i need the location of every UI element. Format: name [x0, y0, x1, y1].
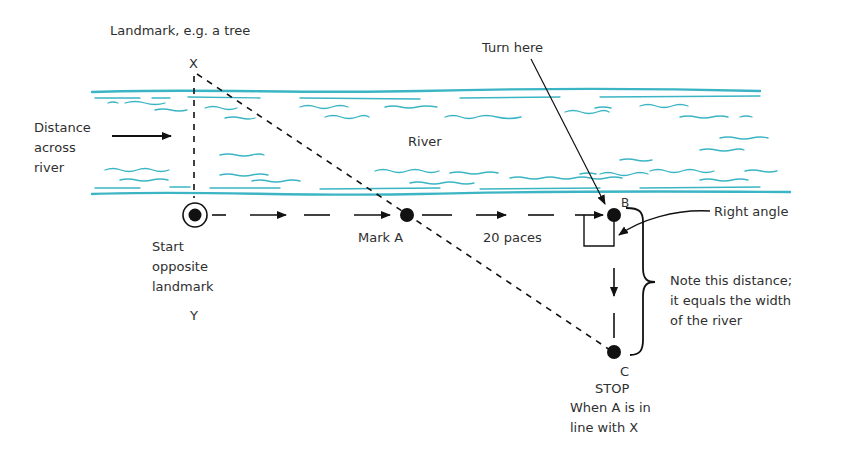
right-angle-arrow [619, 211, 710, 235]
pacing-path [212, 215, 614, 338]
mark-a-label: Mark A [358, 229, 403, 246]
right-angle-label: Right angle [714, 203, 788, 220]
paces-label: 20 paces [483, 229, 542, 246]
point-y [183, 203, 207, 227]
stop-condition-label: When A is in line with X [570, 398, 651, 438]
turn-here-arrow [531, 59, 605, 204]
river-label: River [408, 133, 442, 150]
stop-label: STOP [595, 380, 629, 397]
note-distance-label: Note this distance; it equals the width … [670, 271, 792, 331]
point-b [607, 208, 621, 222]
turn-here-label: Turn here [482, 39, 543, 56]
landmark-label: Landmark, e.g. a tree [110, 22, 250, 39]
point-y-label: Y [190, 307, 198, 324]
point-c [607, 345, 621, 359]
point-b-label: B [621, 195, 629, 212]
point-c-label: C [620, 363, 629, 380]
river-width-diagram [0, 0, 846, 465]
point-a [400, 208, 414, 222]
start-label: Start opposite landmark [152, 237, 214, 297]
river-bottom-bank [92, 191, 790, 194]
river-top-bank [92, 89, 760, 92]
distance-across-label: Distance across river [34, 118, 91, 178]
point-x-label: X [189, 55, 198, 72]
distance-brace [626, 208, 655, 355]
